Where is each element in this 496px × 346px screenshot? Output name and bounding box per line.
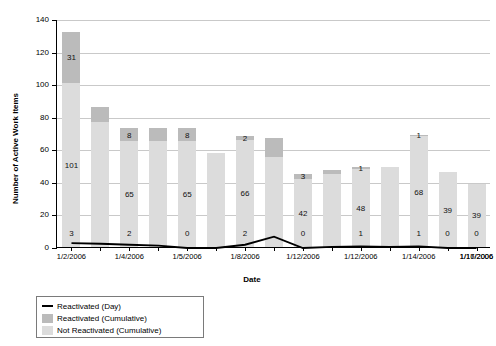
x-axis-tick — [448, 247, 449, 251]
y-axis-tick-label: 40 — [19, 178, 49, 187]
legend-color-swatch — [42, 314, 53, 323]
x-axis-tick — [477, 247, 478, 251]
x-axis-tick — [361, 247, 362, 251]
y-axis-tick-label: 80 — [19, 113, 49, 122]
x-axis-tick-label: 1/5/2006 — [173, 252, 202, 261]
x-axis-tick — [187, 247, 188, 251]
x-axis-tick-label: 1/12/2006 — [344, 252, 377, 261]
y-axis-tick-label: 60 — [19, 145, 49, 154]
legend-item: Not Reactivated (Cumulative) — [42, 324, 198, 336]
legend-label: Reactivated (Day) — [57, 302, 121, 311]
legend-line-swatch — [42, 305, 53, 307]
y-axis-tick-label: 20 — [19, 210, 49, 219]
x-axis-tick-label: 1/14/2006 — [402, 252, 435, 261]
x-axis-tick — [245, 247, 246, 251]
chart-legend: Reactivated (Day) Reactivated (Cumulativ… — [36, 296, 204, 338]
x-axis-tick — [71, 247, 72, 251]
y-axis-tick — [52, 248, 57, 249]
x-axis-tick — [390, 247, 391, 251]
x-axis-tick — [129, 247, 130, 251]
x-axis-tick — [216, 247, 217, 251]
y-axis-tick-label: 140 — [19, 15, 49, 24]
x-axis-tick — [419, 247, 420, 251]
x-axis-tick-label: 1/12/2006 — [286, 252, 319, 261]
reactivated-day-line — [57, 20, 491, 248]
x-axis-tick-label: 1/4/2006 — [115, 252, 144, 261]
x-axis-tick-label: 1/8/2006 — [230, 252, 259, 261]
x-axis-tick-label: 1/17/2006 — [460, 252, 493, 261]
legend-item: Reactivated (Cumulative) — [42, 312, 198, 324]
y-axis-tick-label: 120 — [19, 48, 49, 57]
y-axis-tick-label: 100 — [19, 80, 49, 89]
x-axis-tick — [332, 247, 333, 251]
legend-color-swatch — [42, 326, 53, 335]
x-axis-tick — [158, 247, 159, 251]
legend-item: Reactivated (Day) — [42, 300, 198, 312]
x-axis-tick — [100, 247, 101, 251]
x-axis-title: Date — [0, 275, 496, 284]
chart-root: Number of Active Work Items 020406080100… — [0, 0, 496, 346]
legend-label: Not Reactivated (Cumulative) — [57, 326, 161, 335]
x-axis-tick — [303, 247, 304, 251]
y-axis-tick-label: 0 — [19, 243, 49, 252]
x-axis-tick-label: 1/2/2006 — [57, 252, 86, 261]
plot-area: 020406080100120140 101313658265806622423… — [56, 20, 490, 248]
chart-figure: Number of Active Work Items 020406080100… — [0, 0, 496, 346]
x-axis-tick — [274, 247, 275, 251]
legend-label: Reactivated (Cumulative) — [57, 314, 147, 323]
